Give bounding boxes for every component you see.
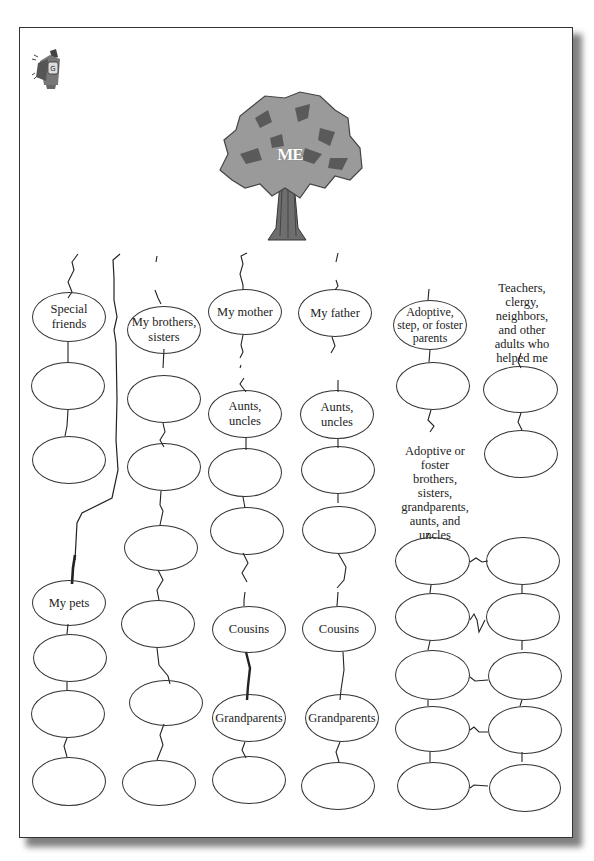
extended-line5: grandparents, — [401, 500, 469, 514]
adoptive-parents-oval[interactable]: Adoptive,step, or fosterparents — [393, 300, 467, 350]
adoptive-line1: Adoptive, — [406, 305, 454, 319]
my-father-oval[interactable]: My father — [298, 289, 372, 337]
adoptive-line3: parents — [413, 331, 448, 345]
sibling-oval-4[interactable] — [121, 600, 195, 648]
paternal-cousins-oval[interactable]: Cousins — [302, 606, 376, 652]
mentors-line5: adults who — [495, 337, 550, 351]
sibling-oval-2[interactable] — [127, 443, 201, 491]
pet-oval-1[interactable] — [33, 634, 107, 682]
sibling-oval-5[interactable] — [129, 680, 203, 726]
brothers-line1: My brothers, — [132, 315, 197, 329]
special-friends-oval[interactable]: Specialfriends — [32, 292, 106, 342]
paternal-oval-2[interactable] — [302, 506, 376, 554]
me-label: ME — [270, 145, 310, 165]
brothers-line2: sisters — [148, 330, 179, 344]
maternal-aunts-line1: Aunts, — [229, 399, 262, 413]
sibling-oval-6[interactable] — [122, 760, 196, 806]
special-friends-line1: Special — [51, 302, 88, 316]
mentors-label: Teachers, clergy, neighbors, and other a… — [480, 281, 564, 365]
sibling-oval-1[interactable] — [127, 375, 201, 423]
adoptive-extended-oval-r2[interactable] — [486, 593, 560, 641]
maternal-aunts-uncles-oval[interactable]: Aunts,uncles — [208, 390, 282, 438]
adoptive-extended-oval-l2[interactable] — [395, 593, 470, 641]
adoptive-extended-oval-l1[interactable] — [395, 537, 470, 585]
my-pets-oval[interactable]: My pets — [32, 580, 106, 626]
adoptive-extended-oval-l5[interactable] — [397, 762, 470, 810]
mentors-line4: and other — [499, 323, 546, 337]
maternal-grandparents-oval[interactable]: Grandparents — [212, 694, 286, 742]
mentors-line3: neighbors, — [496, 309, 548, 323]
tree-icon — [210, 88, 370, 248]
mentor-oval-1[interactable] — [483, 366, 558, 413]
extended-line4: sisters, — [418, 486, 452, 500]
my-pets-label: My pets — [49, 596, 90, 611]
adoptive-extended-oval-r4[interactable] — [488, 706, 562, 754]
maternal-grandparents-label: Grandparents — [215, 711, 282, 726]
paternal-aunts-line2: uncles — [321, 415, 353, 429]
adoptive-extended-oval-l4[interactable] — [395, 706, 470, 752]
friend-oval-1[interactable] — [31, 362, 105, 410]
mascot-icon: G — [30, 45, 70, 90]
my-father-label: My father — [310, 306, 360, 321]
special-friends-line2: friends — [52, 317, 87, 331]
paternal-oval-3[interactable] — [301, 762, 375, 810]
maternal-aunts-line2: uncles — [229, 414, 261, 428]
my-mother-oval[interactable]: My mother — [208, 289, 282, 335]
adoptive-extended-oval-r5[interactable] — [489, 764, 561, 812]
mentor-oval-2[interactable] — [484, 430, 558, 478]
pet-oval-2[interactable] — [31, 690, 105, 738]
adoptive-extended-label: Adoptive or foster brothers, sisters, gr… — [393, 444, 477, 542]
mentors-line6: helped me — [496, 351, 548, 365]
adoptive-line2: step, or foster — [397, 318, 463, 332]
sibling-oval-3[interactable] — [124, 525, 198, 571]
adoptive-oval-1[interactable] — [396, 362, 470, 410]
paternal-cousins-label: Cousins — [319, 622, 359, 637]
adoptive-extended-oval-l3[interactable] — [395, 650, 470, 700]
extended-line6: aunts, and — [410, 514, 461, 528]
mentors-line1: Teachers, — [498, 281, 545, 295]
paternal-aunts-line1: Aunts, — [321, 400, 354, 414]
extended-line1: Adoptive or — [405, 444, 465, 458]
extended-line2: foster — [421, 458, 449, 472]
my-mother-label: My mother — [217, 305, 273, 320]
maternal-oval-1[interactable] — [208, 448, 282, 497]
paternal-oval-1[interactable] — [301, 446, 375, 494]
paternal-grandparents-label: Grandparents — [308, 711, 375, 726]
paternal-grandparents-oval[interactable]: Grandparents — [305, 694, 379, 742]
maternal-oval-3[interactable] — [212, 756, 286, 804]
svg-text:G: G — [50, 65, 55, 73]
paternal-aunts-uncles-oval[interactable]: Aunts,uncles — [300, 390, 374, 439]
friend-oval-2[interactable] — [32, 436, 106, 484]
maternal-cousins-label: Cousins — [229, 622, 269, 637]
extended-line3: brothers, — [413, 472, 457, 486]
adoptive-extended-oval-r3[interactable] — [488, 652, 562, 700]
adoptive-extended-oval-r1[interactable] — [486, 537, 560, 585]
mentors-line2: clergy, — [505, 295, 538, 309]
maternal-oval-2[interactable] — [210, 507, 284, 555]
maternal-cousins-oval[interactable]: Cousins — [212, 606, 286, 653]
brothers-sisters-oval[interactable]: My brothers,sisters — [127, 306, 201, 354]
pet-oval-3[interactable] — [32, 757, 106, 806]
